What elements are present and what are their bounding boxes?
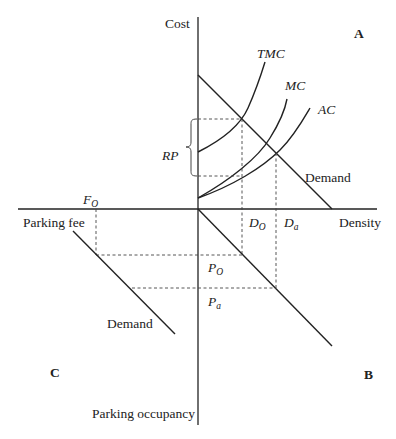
demand-a-label: Demand	[305, 170, 351, 185]
fo-label: FO	[82, 192, 98, 209]
rp-brace	[186, 119, 197, 176]
po-label: PO	[207, 260, 223, 277]
do-label: DO	[248, 215, 266, 232]
quadrant-b-label: B	[364, 367, 373, 382]
quadrant-a-label: A	[354, 26, 364, 41]
quadrant-c-label: C	[50, 365, 60, 380]
tmc-label: TMC	[257, 46, 286, 61]
parking-fee-axis-label: Parking fee	[23, 215, 85, 230]
ac-label: AC	[317, 102, 336, 117]
tmc-curve	[198, 62, 265, 152]
da-label: Da	[283, 215, 299, 232]
cost-axis-label: Cost	[165, 16, 190, 31]
ac-curve	[198, 108, 310, 198]
rp-label: RP	[161, 148, 179, 163]
parking-pricing-diagram: Cost A TMC MC AC RP Demand FO Parking fe…	[0, 0, 396, 439]
parking-occupancy-axis-label: Parking occupancy	[92, 406, 195, 421]
demand-line-a	[198, 75, 332, 209]
density-axis-label: Density	[339, 215, 381, 230]
mc-curve	[198, 99, 287, 198]
demand-c-label: Demand	[107, 316, 153, 331]
mc-label: MC	[284, 78, 306, 93]
pa-label: Pa	[207, 294, 221, 311]
